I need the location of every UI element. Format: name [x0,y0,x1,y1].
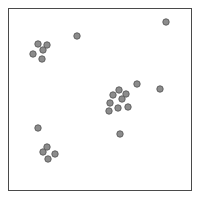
plot-frame-border [8,8,192,191]
scatter-plot-figure [0,0,204,201]
